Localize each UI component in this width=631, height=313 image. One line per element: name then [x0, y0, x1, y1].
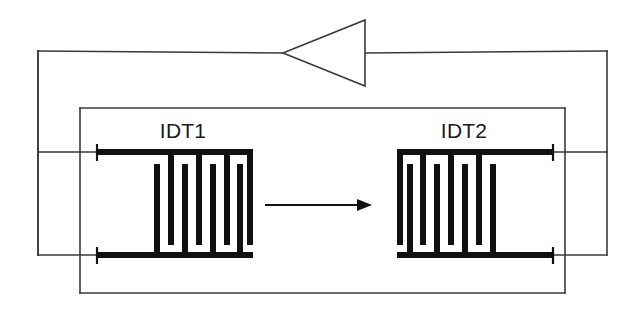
idt1-transducer	[97, 144, 253, 264]
idt1-bottom-finger-4	[237, 164, 243, 258]
idt1-bottom-busbar	[97, 252, 253, 258]
amplifier-input-wire	[365, 51, 607, 53]
idt2-bottom-finger-3	[462, 164, 468, 258]
idt2-bottom-finger-2	[434, 164, 440, 258]
propagation-arrow-head	[357, 199, 372, 211]
idt2-top-finger-1	[397, 149, 403, 245]
idt1-bottom-finger-3	[210, 164, 216, 258]
idt1-top-finger-4	[247, 149, 253, 245]
idt2-bottom-finger-1	[407, 164, 413, 258]
idt1-label: IDT1	[160, 119, 206, 142]
diagram-canvas: IDT1 IDT2	[0, 0, 631, 313]
idt2-bottom-finger-4	[490, 164, 496, 258]
idt2-top-finger-3	[448, 149, 454, 245]
idt1-bottom-finger-2	[182, 164, 188, 258]
idt2-top-finger-2	[420, 149, 426, 245]
idt1-top-finger-2	[196, 149, 202, 245]
idt2-transducer	[397, 144, 553, 264]
wave-propagation-arrow-icon	[265, 199, 372, 211]
idt1-top-finger-3	[224, 149, 230, 245]
idt2-label: IDT2	[441, 119, 487, 142]
saw-oscillator-diagram: IDT1 IDT2	[0, 0, 631, 313]
amplifier-triangle-icon	[283, 20, 365, 86]
idt1-top-finger-1	[168, 149, 174, 245]
idt2-bottom-busbar	[397, 252, 553, 258]
idt1-bottom-finger-1	[154, 164, 160, 258]
idt2-top-finger-4	[476, 149, 482, 245]
amplifier-output-wire	[38, 51, 283, 53]
